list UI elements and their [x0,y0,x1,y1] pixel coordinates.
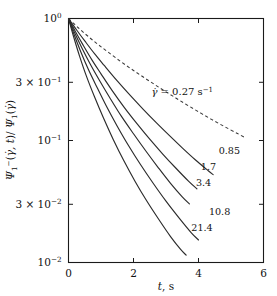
x-tick-label-6: 6 [260,267,267,279]
semilog-relaxation-chart: 0.851.73.410.821.4 γ̇ = 0.27 s−1 0246 10… [0,0,277,296]
y-axis-title-text: Ψ1−(γ̇, t)/ Ψ1(γ̇) [4,100,19,180]
curve-label-21.4: 21.4 [191,222,212,233]
y-tick-label-4: 10−2 [38,255,62,268]
y-axis-title: Ψ1−(γ̇, t)/ Ψ1(γ̇) [4,100,19,180]
curve-label-3.4: 3.4 [196,177,211,188]
x-tick-label-0: 0 [65,267,72,279]
x-tick-labels: 0246 [65,267,267,279]
x-tick-label-2: 2 [130,267,137,279]
curve-3.4 [69,19,190,204]
curve-label-1.7: 1.7 [201,161,216,172]
y-tick-labels: 1003 × 10−110−13 × 10−210−2 [15,11,62,268]
x-tick-label-4: 4 [195,267,202,279]
y-tick-label-0: 100 [44,11,62,24]
curve-label-0.85: 0.85 [219,145,240,156]
curve-0.27 [69,19,246,138]
annotation-text: γ̇ = 0.27 s−1 [151,86,213,98]
y-tick-label-3: 3 × 10−2 [15,197,61,210]
curve-labels: 0.851.73.410.821.4 [191,145,240,234]
curve-series [69,19,246,256]
x-axis-title: t, s [158,280,174,292]
shear-rate-annotation: γ̇ = 0.27 s−1 [151,86,213,98]
y-tick-label-1: 3 × 10−1 [15,75,61,88]
curve-10.8 [69,19,199,240]
chart-figure: 0.851.73.410.821.4 γ̇ = 0.27 s−1 0246 10… [0,0,277,296]
curve-21.4 [69,19,187,256]
x-axis-title-text: t, s [158,280,174,292]
y-tick-label-2: 10−1 [38,133,62,146]
axes [69,19,264,263]
curve-label-10.8: 10.8 [209,206,230,217]
